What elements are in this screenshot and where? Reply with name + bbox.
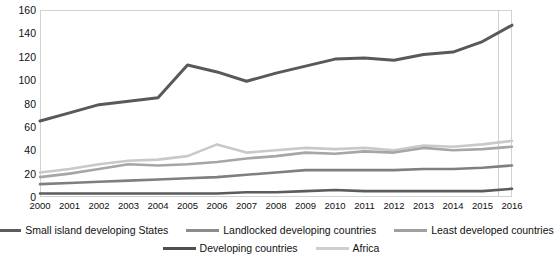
chart-legend: Small island developing StatesLandlocked… [0,221,542,265]
legend-item[interactable]: Small island developing States [0,224,168,236]
x-axis-tick: 2004 [147,200,168,212]
x-axis-tick: 2011 [354,200,374,212]
legend-item[interactable]: Developing countries [163,242,298,254]
y-axis-tick: 160 [2,5,36,16]
y-axis-tick: 140 [2,28,36,39]
legend-line-swatch [186,229,219,232]
legend-item[interactable]: Landlocked developing countries [186,224,376,236]
legend-line-swatch [316,247,349,250]
x-axis-tick: 2010 [324,200,345,212]
y-axis: 020406080100120140160 [0,0,36,210]
y-axis-tick: 120 [2,52,36,63]
x-axis-tick: 2015 [472,200,493,212]
series-layer [40,10,512,197]
legend-row-2: Developing countriesAfrica [0,239,542,257]
legend-label: Developing countries [200,242,298,254]
y-axis-tick: 100 [2,75,36,86]
legend-line-swatch [163,247,196,250]
y-axis-tick: 20 [2,169,36,180]
legend-item[interactable]: Africa [316,242,380,254]
x-axis-tick: 2003 [118,200,139,212]
x-axis-tick: 2016 [501,200,522,212]
x-axis-tick: 2006 [206,200,227,212]
x-axis-tick: 2007 [236,200,257,212]
y-axis-tick: 60 [2,122,36,133]
legend-line-swatch [0,229,21,232]
x-axis-tick: 2000 [29,200,50,212]
y-axis-tick: 40 [2,145,36,156]
x-axis-tick: 2005 [177,200,198,212]
x-axis-tick: 2012 [383,200,404,212]
legend-label: Small island developing States [25,224,168,236]
legend-label: Africa [353,242,380,254]
legend-line-swatch [394,229,427,232]
legend-row-1: Small island developing StatesLandlocked… [0,221,542,239]
x-axis-tick: 2002 [88,200,109,212]
series-line [40,189,512,194]
series-line [40,25,512,121]
x-axis: 2000200120022003200420052006200720082009… [0,200,542,216]
legend-item[interactable]: Least developed countries [394,224,554,236]
y-axis-tick: 80 [2,99,36,110]
x-axis-tick: 2008 [265,200,286,212]
x-axis-tick: 2001 [59,200,80,212]
x-axis-tick: 2009 [295,200,316,212]
x-axis-tick: 2014 [442,200,463,212]
legend-label: Least developed countries [431,224,554,236]
x-axis-tick: 2013 [413,200,434,212]
legend-label: Landlocked developing countries [223,224,376,236]
